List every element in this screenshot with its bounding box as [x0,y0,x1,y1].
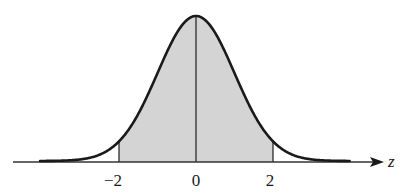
tick-label-neg2: −2 [104,172,122,189]
axis-label-z: z [388,153,395,170]
normal-curve-chart [0,0,404,193]
tick-label-2: 2 [266,172,275,189]
tick-label-0: 0 [192,172,201,189]
